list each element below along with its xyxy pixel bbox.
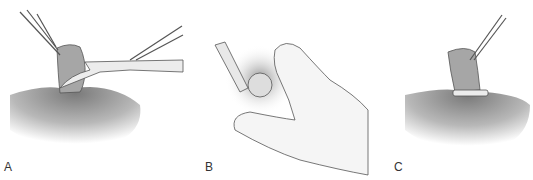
panel-c-illustration [370, 0, 533, 180]
panel-a-illustration [0, 0, 190, 180]
panel-c-label: C [394, 160, 403, 174]
panel-b-label: B [205, 160, 213, 174]
panel-b-illustration [190, 0, 370, 180]
panel-a-label: A [4, 160, 12, 174]
panel-c: C [370, 0, 533, 180]
panel-b: B [190, 0, 370, 180]
panel-a: A [0, 0, 190, 180]
